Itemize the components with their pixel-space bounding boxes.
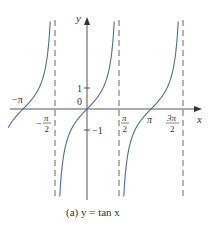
x-tick-label-pi: π [147, 114, 153, 125]
tan-graph: y x 1 0 −1 −π − π 2 π 2 π 3π 2 (a) y = t… [0, 0, 210, 228]
neg-sign: − [36, 118, 42, 129]
frac-num: π [44, 113, 49, 123]
tan-branch-left [8, 22, 50, 128]
figure-caption: (a) y = tan x [66, 206, 120, 219]
frac-num: 3π [166, 113, 177, 123]
frac-den: 2 [170, 124, 175, 134]
x-axis-label: x [196, 113, 202, 125]
x-tick-label-three-half-pi: 3π 2 [166, 113, 179, 134]
frac-den: 2 [45, 124, 50, 134]
frac-den: 2 [123, 124, 128, 134]
x-tick-label-neg-half-pi: − π 2 [36, 113, 51, 134]
x-tick-label-neg-pi: −π [12, 94, 23, 105]
frac-num: π [122, 113, 127, 123]
y-tick-label-1: 1 [77, 83, 82, 94]
y-axis-arrow-icon [84, 17, 90, 25]
y-tick-label-neg1: −1 [92, 125, 103, 136]
x-tick-label-half-pi: π 2 [121, 113, 129, 134]
y-tick-label-0: 0 [77, 96, 82, 107]
x-axis-arrow-icon [194, 106, 202, 112]
y-axis-label: y [75, 12, 81, 24]
